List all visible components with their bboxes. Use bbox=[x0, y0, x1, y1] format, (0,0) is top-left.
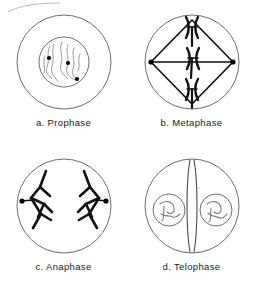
caption-prophase: a. Prophase bbox=[0, 117, 127, 128]
nuclear-envelope-circle bbox=[39, 37, 89, 87]
chromatin-threads bbox=[207, 201, 227, 222]
chromosomes-v-shaped-left bbox=[31, 171, 52, 228]
chromatin-threads bbox=[160, 201, 180, 221]
chromosome-middle bbox=[187, 48, 199, 78]
daughter-nucleus-left bbox=[153, 194, 185, 226]
panel-metaphase: b. Metaphase bbox=[128, 0, 255, 144]
scan-speck bbox=[198, 187, 199, 188]
anaphase-illustration bbox=[0, 144, 127, 266]
panel-prophase: a. Prophase bbox=[0, 0, 127, 144]
chromosome-top bbox=[186, 17, 198, 46]
daughter-nucleus-right bbox=[200, 194, 232, 226]
chromosomes-v-shaped-right bbox=[78, 171, 99, 228]
chromatin-threads bbox=[44, 42, 80, 81]
telophase-illustration bbox=[128, 144, 255, 266]
panel-telophase: d. Telophase bbox=[128, 144, 255, 288]
cell-membrane-circle bbox=[17, 159, 111, 253]
caption-telophase: d. Telophase bbox=[128, 261, 255, 272]
prophase-illustration bbox=[0, 0, 127, 122]
spindle-pole-dot-left bbox=[19, 198, 24, 203]
panel-anaphase: c. Anaphase bbox=[0, 144, 127, 288]
metaphase-illustration bbox=[128, 0, 255, 122]
mitosis-phases-figure: a. Prophase bbox=[0, 0, 255, 288]
spindle-pole-dot-right bbox=[103, 198, 108, 203]
chromosome-bottom bbox=[186, 79, 198, 108]
cell-membrane-circle bbox=[145, 159, 239, 253]
cleavage-furrow bbox=[187, 160, 197, 253]
cell-membrane-circle bbox=[17, 15, 111, 109]
caption-metaphase: b. Metaphase bbox=[128, 117, 255, 128]
caption-anaphase: c. Anaphase bbox=[0, 261, 127, 272]
